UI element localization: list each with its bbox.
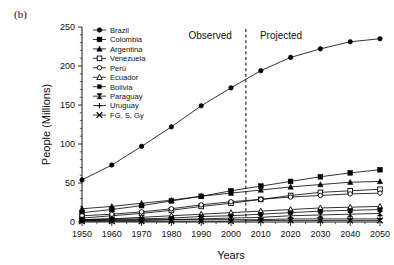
x-tick-label: 2000	[221, 229, 241, 239]
x-tick-label: 1980	[161, 229, 181, 239]
x-tick-label: 1990	[191, 229, 211, 239]
y-tick-label: 100	[60, 139, 75, 149]
data-point-marker	[259, 197, 263, 201]
data-point-marker	[98, 85, 102, 89]
legend-label: Brazil	[110, 26, 129, 35]
data-point-marker	[80, 178, 85, 183]
data-point-marker	[139, 210, 143, 214]
figure-panel: (b) 195019601970198019902000201020202030…	[0, 0, 394, 265]
population-line-chart: 1950196019701980199020002010202020302040…	[0, 0, 394, 265]
y-tick-label: 50	[65, 178, 75, 188]
data-point-marker	[378, 36, 383, 41]
data-point-marker	[199, 203, 203, 207]
legend-item-brazil[interactable]: Brazil	[93, 26, 129, 35]
data-point-marker	[97, 66, 101, 70]
data-point-marker	[348, 192, 352, 196]
data-point-marker	[139, 144, 144, 149]
data-point-marker	[378, 191, 382, 195]
y-axis-title: People (Millions)	[40, 84, 52, 165]
data-point-marker	[229, 200, 233, 204]
x-tick-label: 2040	[340, 229, 360, 239]
data-point-marker	[288, 195, 292, 199]
y-tick-label: 0	[70, 217, 75, 227]
legend-item-argentina[interactable]: Argentina	[93, 45, 143, 54]
legend-item-uruguay[interactable]: Uruguay	[93, 101, 139, 110]
x-tick-label: 2050	[370, 229, 390, 239]
chart-canvas: 1950196019701980199020002010202020302040…	[0, 0, 394, 265]
y-tick-label: 200	[60, 61, 75, 71]
x-tick-label: 1950	[72, 229, 92, 239]
data-point-marker	[97, 28, 102, 33]
data-point-marker	[378, 167, 383, 172]
legend-item-colombia[interactable]: Colombia	[93, 35, 143, 44]
legend-item-fg-s-gy[interactable]: FG, S, Gy	[93, 111, 144, 120]
x-tick-label: 1970	[132, 229, 152, 239]
data-point-marker	[97, 37, 102, 42]
legend-label: Paraguay	[110, 92, 143, 101]
legend-item-paraguay[interactable]: Paraguay	[93, 92, 143, 101]
data-point-marker	[97, 56, 102, 61]
data-point-marker	[259, 68, 264, 73]
chart-legend: BrazilColombiaArgentinaVenezuelaPerúEcua…	[93, 26, 146, 120]
data-point-marker	[199, 103, 204, 108]
data-point-marker	[288, 55, 293, 60]
data-point-marker	[229, 86, 234, 91]
legend-label: Colombia	[110, 35, 143, 44]
x-axis-title: Years	[217, 249, 245, 261]
x-tick-label: 2030	[310, 229, 330, 239]
data-point-marker	[348, 40, 353, 45]
legend-label: Argentina	[110, 45, 143, 54]
legend-label: Uruguay	[110, 101, 139, 110]
legend-label: FG, S, Gy	[110, 111, 144, 120]
data-point-marker	[169, 207, 173, 211]
x-tick-label: 2020	[281, 229, 301, 239]
projected-label: Projected	[260, 30, 302, 41]
legend-item-venezuela[interactable]: Venezuela	[93, 54, 146, 63]
y-tick-label: 250	[60, 22, 75, 32]
x-tick-labels: 1950196019701980199020002010202020302040…	[72, 229, 390, 239]
legend-label: Perú	[110, 64, 126, 73]
y-tick-labels: 050100150200250	[60, 22, 75, 227]
data-point-marker	[318, 47, 323, 52]
legend-item-ecuador[interactable]: Ecuador	[93, 73, 139, 82]
legend-label: Bolivia	[110, 83, 133, 92]
data-point-marker	[288, 179, 293, 184]
observed-label: Observed	[189, 30, 232, 41]
y-tick-label: 150	[60, 100, 75, 110]
data-point-marker	[318, 193, 322, 197]
data-point-marker	[318, 174, 323, 179]
annotation-labels: ObservedProjected	[189, 30, 303, 41]
legend-item-bolivia[interactable]: Bolivia	[93, 83, 133, 92]
legend-label: Venezuela	[110, 54, 146, 63]
x-tick-label: 1960	[102, 229, 122, 239]
data-point-marker	[169, 125, 174, 130]
legend-label: Ecuador	[110, 73, 139, 82]
x-tick-label: 2010	[251, 229, 271, 239]
data-point-marker	[348, 170, 353, 175]
legend-item-per[interactable]: Perú	[93, 64, 126, 73]
data-point-marker	[110, 163, 115, 168]
